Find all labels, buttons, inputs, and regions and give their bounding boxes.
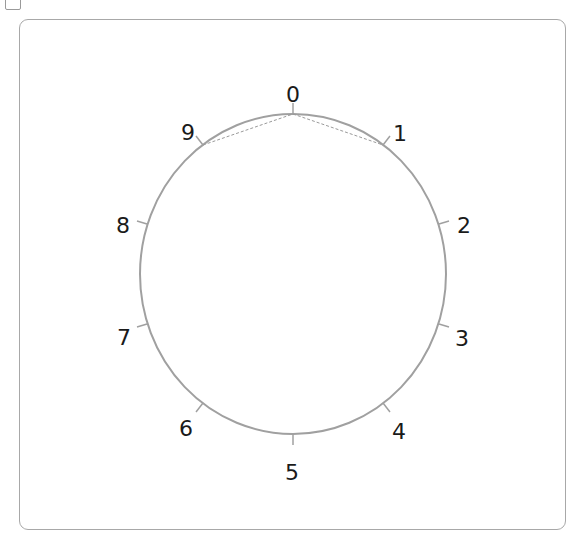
tick-mark-9 xyxy=(196,136,203,145)
tick-mark-1 xyxy=(383,136,390,145)
number-label-3: 3 xyxy=(455,326,469,351)
number-label-4: 4 xyxy=(392,419,406,444)
tick-mark-4 xyxy=(383,403,390,412)
number-label-5: 5 xyxy=(285,460,299,485)
number-label-6: 6 xyxy=(179,416,193,441)
tick-mark-3 xyxy=(439,324,449,327)
dashed-chord-0-1 xyxy=(293,114,383,145)
number-dial: 0123456789 xyxy=(0,0,581,548)
dial-circle xyxy=(140,114,446,434)
tick-mark-2 xyxy=(439,221,449,224)
number-labels: 0123456789 xyxy=(116,82,471,485)
tick-mark-6 xyxy=(196,403,203,412)
number-label-9: 9 xyxy=(181,120,195,145)
tick-marks xyxy=(137,103,449,445)
dashed-chords xyxy=(203,114,383,145)
number-label-1: 1 xyxy=(393,121,407,146)
tick-mark-7 xyxy=(137,324,147,327)
number-label-2: 2 xyxy=(457,213,471,238)
tick-mark-8 xyxy=(137,221,147,224)
number-label-7: 7 xyxy=(117,325,131,350)
number-label-8: 8 xyxy=(116,213,130,238)
dashed-chord-9-0 xyxy=(203,114,293,145)
number-label-0: 0 xyxy=(286,82,300,107)
